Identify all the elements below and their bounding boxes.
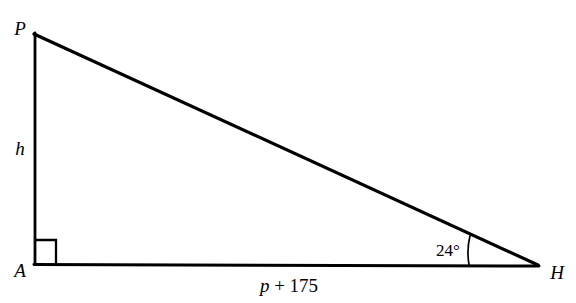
base-expression-operator: + xyxy=(274,275,285,296)
triangle-diagram: P A H h p + 175 24° xyxy=(0,0,576,303)
vertex-label-p: P xyxy=(14,19,26,38)
hypotenuse-line-ph xyxy=(34,34,538,265)
base-leg-line-ah xyxy=(34,265,539,267)
vertex-label-h: H xyxy=(550,263,564,282)
right-angle-marker-icon xyxy=(35,240,56,263)
triangle-figure-svg xyxy=(0,0,576,303)
base-expression-number: 175 xyxy=(290,275,319,296)
angle-label-24-degrees: 24° xyxy=(436,242,460,259)
base-expression-variable: p xyxy=(260,275,270,296)
side-label-base-expression: p + 175 xyxy=(260,276,318,295)
angle-arc-icon xyxy=(468,236,470,266)
vertex-label-a: A xyxy=(14,261,26,280)
side-label-height-h: h xyxy=(15,139,25,158)
